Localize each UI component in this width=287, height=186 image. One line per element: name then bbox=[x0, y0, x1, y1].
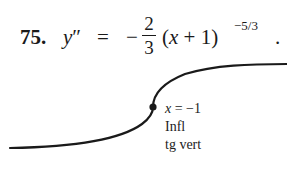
point-label-vertical-tangent: tg vert bbox=[165, 138, 201, 152]
label-x-value: = −1 bbox=[171, 101, 201, 116]
inflection-point-marker bbox=[149, 103, 156, 110]
point-label-x: x = −1 bbox=[165, 102, 201, 116]
curve bbox=[10, 64, 287, 148]
point-label-inflection: Infl bbox=[165, 120, 185, 134]
curve-plot bbox=[0, 0, 287, 186]
